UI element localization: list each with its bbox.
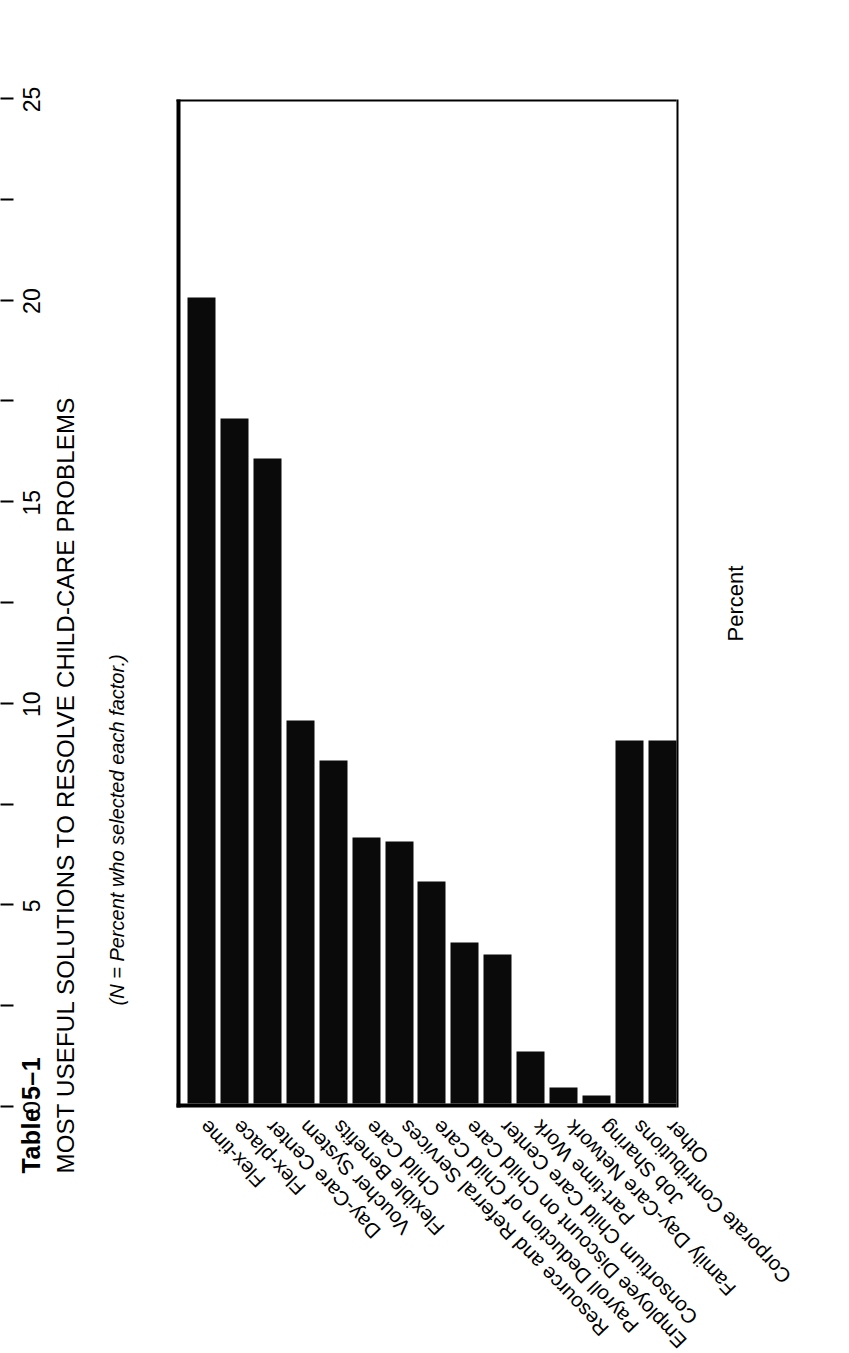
category-label: Resource and Referral Services	[394, 1115, 717, 1353]
axis-tick	[0, 97, 13, 99]
axis-tick	[0, 399, 13, 401]
value-axis	[676, 99, 678, 1107]
category-label: Other	[660, 1115, 849, 1353]
category-label: Employee Discount on Child Care	[460, 1115, 783, 1353]
plot-area	[176, 99, 676, 1107]
bar	[352, 837, 380, 1103]
axis-tick	[0, 903, 13, 905]
category-label: Flex-place	[227, 1115, 550, 1353]
category-label: Payroll Deduction of Child Care	[427, 1115, 750, 1353]
axis-tick	[0, 198, 13, 200]
axis-tick	[0, 500, 13, 502]
bar	[286, 720, 314, 1103]
bar-row	[286, 101, 314, 1103]
bar-row	[352, 101, 380, 1103]
axis-title: Percent	[722, 99, 748, 1107]
bar-row	[385, 101, 413, 1103]
axis-tick	[0, 1105, 13, 1107]
bar-row	[615, 101, 643, 1103]
bar	[385, 841, 413, 1103]
figure-header: Table 5–1 MOST USEFUL SOLUTIONS TO RESOL…	[16, 73, 128, 1173]
bar-row	[582, 101, 610, 1103]
plot-inner	[180, 101, 676, 1103]
bar	[220, 418, 248, 1103]
axis-tick	[0, 1004, 13, 1006]
bar	[417, 881, 445, 1103]
bar	[648, 740, 676, 1103]
axis-tick-label: 20	[18, 288, 45, 314]
bar	[253, 458, 281, 1103]
bar-row	[450, 101, 478, 1103]
axis-tick	[0, 702, 13, 704]
axis-tick-label: 25	[18, 86, 45, 112]
category-label: Family Day-Care Network	[560, 1115, 849, 1353]
category-label: Day-Care Center	[260, 1115, 583, 1353]
category-label: Corporate Contributions	[627, 1115, 849, 1353]
bar	[516, 1051, 544, 1103]
bar-row	[417, 101, 445, 1103]
axis-tick	[0, 299, 13, 301]
bar-row	[483, 101, 511, 1103]
axis-tick-label: 10	[18, 691, 45, 717]
table-number: Table 5–1	[16, 73, 45, 1173]
bar	[483, 954, 511, 1103]
category-label: Part-time Work	[527, 1115, 849, 1353]
bar	[319, 760, 347, 1103]
bar-row	[549, 101, 577, 1103]
category-label: Flexible Benefits	[327, 1115, 650, 1353]
axis-tick	[0, 601, 13, 603]
bar-row	[648, 101, 676, 1103]
bar	[582, 1095, 610, 1103]
bar	[549, 1087, 577, 1103]
axis-tick	[0, 803, 13, 805]
bar-row	[319, 101, 347, 1103]
bar	[187, 297, 215, 1103]
bar-row	[253, 101, 281, 1103]
category-label: Job Sharing	[594, 1115, 849, 1353]
bar-row	[516, 101, 544, 1103]
bar-row	[220, 101, 248, 1103]
bar-series	[180, 101, 676, 1103]
bar	[450, 942, 478, 1103]
bar-row	[187, 101, 215, 1103]
category-label: Consortium Child Care Center	[494, 1115, 817, 1353]
axis-tick-label: 0	[18, 1101, 45, 1114]
axis-tick-label: 15	[18, 489, 45, 515]
figure-title: MOST USEFUL SOLUTIONS TO RESOLVE CHILD-C…	[51, 73, 79, 1173]
figure-subtitle: (N = Percent who selected each factor.)	[105, 73, 128, 1005]
axis-tick-label: 5	[18, 899, 45, 912]
category-label: Child Care	[360, 1115, 683, 1353]
category-label: Flex-time	[194, 1115, 517, 1353]
category-label: Voucher System	[294, 1115, 617, 1353]
bar	[615, 740, 643, 1103]
